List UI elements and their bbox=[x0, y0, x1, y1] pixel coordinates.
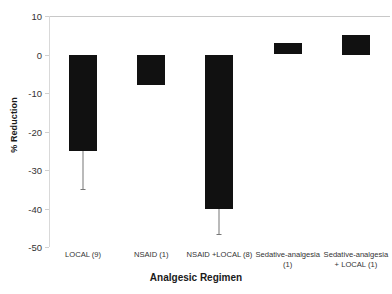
y-tick-label: -20 bbox=[28, 126, 42, 137]
bar-group bbox=[117, 16, 185, 247]
bar bbox=[69, 55, 97, 151]
bar-group bbox=[254, 16, 322, 247]
y-tick-label: 0 bbox=[37, 49, 42, 60]
x-tick-label: NSAID +LOCAL (8) bbox=[185, 250, 253, 260]
bar bbox=[137, 55, 165, 86]
bar bbox=[342, 35, 370, 54]
bar-group bbox=[322, 16, 390, 247]
error-bar bbox=[83, 151, 84, 190]
y-tick-mark bbox=[45, 247, 49, 248]
plot-area: 10 0 -10 -20 -30 -40 -50 bbox=[49, 16, 390, 247]
x-axis-title: Analgesic Regimen bbox=[0, 272, 392, 283]
y-tick-label: -40 bbox=[28, 203, 42, 214]
y-tick-label: -50 bbox=[28, 242, 42, 253]
bar-group bbox=[185, 16, 253, 247]
error-bar bbox=[219, 209, 220, 234]
y-tick-label: 10 bbox=[31, 11, 42, 22]
bar-series bbox=[49, 16, 390, 247]
bar bbox=[274, 43, 302, 55]
bar-group bbox=[49, 16, 117, 247]
x-tick-label: NSAID (1) bbox=[117, 250, 185, 260]
y-axis-title: % Reduction bbox=[9, 75, 19, 175]
y-tick-label: -10 bbox=[28, 88, 42, 99]
y-tick-label: -30 bbox=[28, 165, 42, 176]
error-bar-cap bbox=[81, 189, 86, 190]
bar bbox=[205, 55, 233, 209]
x-tick-label: Sedative-analgesia + LOCAL (1) bbox=[322, 250, 390, 270]
x-tick-label: Sedative-analgesia (1) bbox=[254, 250, 322, 270]
bar-chart: % Reduction 10 0 -10 -20 -30 -40 bbox=[0, 0, 392, 294]
x-tick-label: LOCAL (9) bbox=[49, 250, 117, 260]
error-bar-cap bbox=[217, 234, 222, 235]
